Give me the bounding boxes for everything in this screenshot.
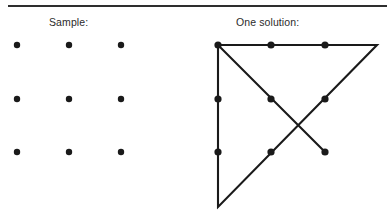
figure-root: Sample: One solution: xyxy=(0,0,387,217)
sample-dot-r1c3 xyxy=(118,42,124,48)
sample-dot-grid xyxy=(0,0,387,217)
sample-dot-r2c2 xyxy=(66,96,72,102)
sample-dot-r1c1 xyxy=(14,42,20,48)
sample-panel: Sample: xyxy=(0,0,180,217)
sample-dot-r3c3 xyxy=(118,149,124,155)
sample-dot-r3c2 xyxy=(66,149,72,155)
sample-dot-r2c1 xyxy=(14,96,20,102)
sample-dot-r1c2 xyxy=(66,42,72,48)
sample-dot-r2c3 xyxy=(118,96,124,102)
sample-dot-r3c1 xyxy=(14,149,20,155)
